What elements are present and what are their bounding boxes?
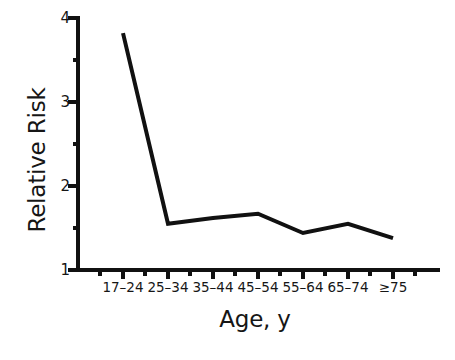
relative-risk-line-chart: Relative Risk Age, y 4 3 2 1 17–24 25–34…	[0, 0, 455, 360]
relative-risk-series-line	[123, 33, 393, 238]
plot-area	[0, 0, 455, 360]
